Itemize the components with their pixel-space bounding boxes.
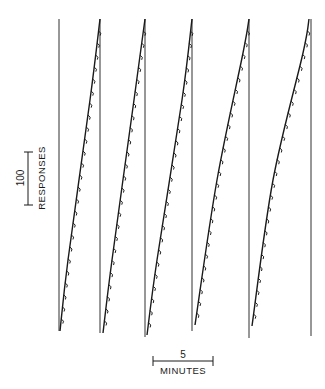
response-records bbox=[60, 19, 309, 335]
reinforcement-pip bbox=[280, 148, 282, 153]
reinforcement-pip bbox=[272, 183, 274, 188]
reinforcement-pip bbox=[221, 160, 223, 165]
y-scale-value: 100 bbox=[15, 169, 26, 186]
x-scale-unit: MINUTES bbox=[160, 365, 206, 376]
y-scale-bar: 100 RESPONSES bbox=[15, 146, 47, 210]
reinforcement-pip bbox=[176, 141, 178, 146]
reinforcement-pip bbox=[223, 148, 225, 153]
y-scale-unit: RESPONSES bbox=[36, 146, 47, 210]
reinforcement-pip bbox=[307, 31, 309, 36]
reinforcement-pip bbox=[238, 78, 240, 83]
reinforcement-pip bbox=[297, 78, 299, 83]
reinforcement-pip bbox=[172, 165, 174, 170]
x-scale-value: 5 bbox=[180, 349, 186, 360]
reinforcement-pip bbox=[282, 136, 284, 141]
reinforcement-pip bbox=[243, 54, 245, 59]
reinforcement-pip bbox=[305, 43, 307, 48]
x-scale-bar: 5 MINUTES bbox=[153, 349, 213, 376]
reinforcement-pip bbox=[277, 160, 279, 165]
reinforcement-pip bbox=[275, 171, 277, 176]
reinforcement-pip bbox=[245, 43, 247, 48]
reinforcement-pip bbox=[235, 89, 237, 94]
reinforcement-pip bbox=[240, 66, 242, 71]
reinforcement-pip bbox=[180, 116, 182, 121]
reinforcement-pip bbox=[181, 104, 183, 109]
reinforcement-pip bbox=[230, 113, 232, 118]
reinforcement-pip bbox=[225, 136, 227, 141]
cumulative-record-figure: 100 RESPONSES 5 MINUTES bbox=[0, 0, 325, 389]
reinforcement-pip bbox=[219, 171, 221, 176]
reinforcement-pip bbox=[291, 101, 293, 106]
reinforcement-pip bbox=[216, 183, 218, 188]
reinforcement-pip bbox=[233, 101, 235, 106]
reinforcement-pip bbox=[174, 153, 176, 158]
reinforcement-pip bbox=[288, 113, 290, 118]
reinforcement-pip bbox=[285, 124, 287, 129]
reinforcement-pip bbox=[228, 124, 230, 129]
reinforcement-pip bbox=[294, 89, 296, 94]
reinforcement-pip bbox=[300, 66, 302, 71]
reinforcement-pip bbox=[178, 129, 180, 134]
reinforcement-pip bbox=[303, 54, 305, 59]
record-line bbox=[147, 19, 192, 335]
